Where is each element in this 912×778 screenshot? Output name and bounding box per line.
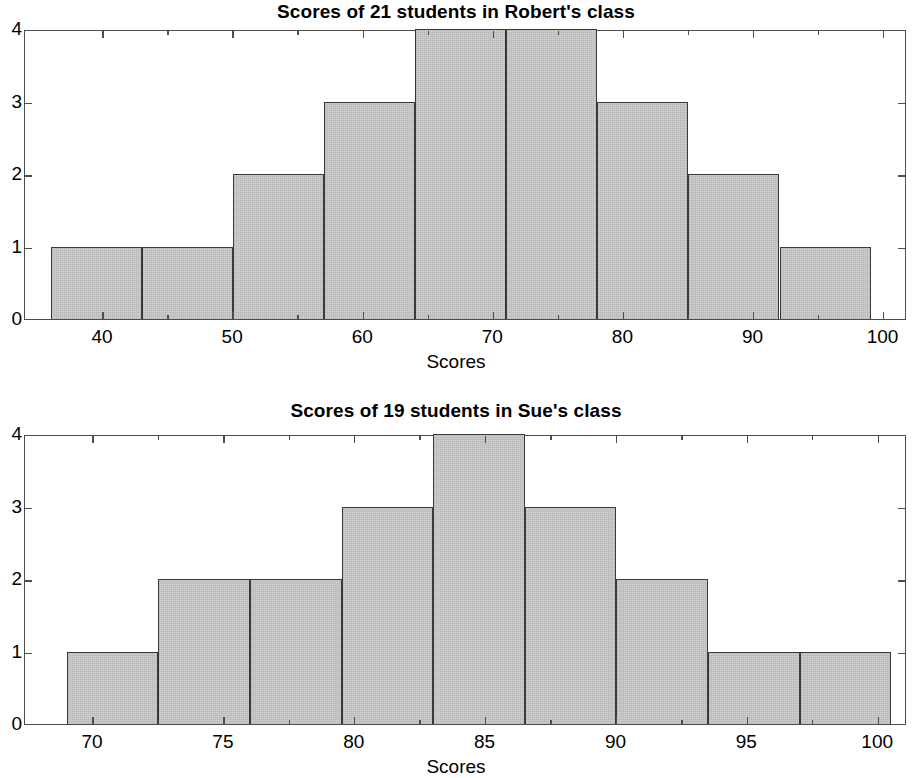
x-tick-mark [493,312,494,319]
x-tick-label: 70 [462,326,522,348]
histogram-bar [597,102,688,320]
figure-canvas: Scores of 21 students in Robert's class … [0,0,912,778]
histogram-bar [233,174,324,319]
x-minor-tick-mark [812,720,813,724]
x-minor-tick-mark [419,720,420,724]
histogram-bar [800,652,892,725]
x-axis-label-robert: Scores [0,351,912,373]
histogram-bar [324,102,415,320]
x-tick-mark [354,717,355,724]
x-minor-tick-mark [550,720,551,724]
histogram-bar [616,579,708,724]
x-tick-mark-top [485,436,486,443]
x-tick-label: 40 [72,326,132,348]
chart-panel-robert: Scores of 21 students in Robert's class … [0,0,912,389]
x-tick-mark [753,312,754,319]
x-minor-tick-mark [558,315,559,319]
x-tick-mark-top [223,436,224,443]
y-tick-label: 1 [0,236,22,258]
chart-title-sue: Scores of 19 students in Sue's class [0,400,912,422]
histogram-bar [415,29,506,319]
y-tick-label: 0 [0,713,22,735]
histogram-bar [51,247,142,320]
x-minor-tick-mark-top [558,31,559,35]
x-minor-tick-mark-top [158,436,159,440]
chart-panel-sue: Scores of 19 students in Sue's class 707… [0,389,912,778]
x-minor-tick-mark [818,315,819,319]
x-minor-tick-mark [428,315,429,319]
x-tick-mark-top [363,31,364,38]
x-minor-tick-mark [688,315,689,319]
x-tick-mark [92,717,93,724]
x-minor-tick-mark-top [688,31,689,35]
x-tick-label: 60 [332,326,392,348]
x-tick-label: 100 [853,326,912,348]
x-minor-tick-mark-top [812,436,813,440]
histogram-bar [158,579,250,724]
x-tick-label: 80 [324,731,384,753]
x-minor-tick-mark-top [428,31,429,35]
x-tick-mark-top [753,31,754,38]
x-tick-mark-top [747,436,748,443]
x-minor-tick-mark-top [681,436,682,440]
histogram-bar [67,652,159,725]
y-tick-mark-right [898,653,905,654]
x-tick-mark [485,717,486,724]
x-tick-mark-top [232,31,233,38]
x-minor-tick-mark-top [289,436,290,440]
histogram-bar [433,434,525,724]
plot-area-robert [24,30,906,320]
x-tick-label: 85 [455,731,515,753]
y-tick-mark [25,248,32,249]
x-tick-label: 100 [847,731,907,753]
y-tick-label: 1 [0,641,22,663]
x-tick-mark-top [102,31,103,38]
histogram-bar [688,174,779,319]
x-tick-label: 95 [716,731,776,753]
y-tick-mark [25,580,32,581]
x-tick-label: 75 [193,731,253,753]
plot-area-sue [24,435,906,725]
x-tick-label: 90 [585,731,645,753]
y-tick-mark-right [898,508,905,509]
x-minor-tick-mark [297,315,298,319]
y-tick-mark [25,653,32,654]
histogram-bar [780,247,871,320]
x-tick-mark [878,717,879,724]
x-tick-mark-top [883,31,884,38]
y-tick-mark-right [898,248,905,249]
x-tick-mark-top [616,436,617,443]
x-tick-mark [883,312,884,319]
histogram-bar [525,507,617,725]
x-tick-mark [363,312,364,319]
x-tick-mark [623,312,624,319]
x-axis-label-sue: Scores [0,756,912,778]
y-tick-mark-right [898,175,905,176]
x-tick-label: 90 [722,326,782,348]
y-tick-label: 0 [0,308,22,330]
histogram-bar [708,652,800,725]
y-tick-label: 4 [0,18,22,40]
x-tick-label: 50 [202,326,262,348]
x-minor-tick-mark [167,315,168,319]
x-tick-mark [232,312,233,319]
x-tick-mark-top [878,436,879,443]
y-tick-label: 2 [0,163,22,185]
y-tick-mark [25,175,32,176]
histogram-bars-robert [25,31,905,319]
x-minor-tick-mark-top [550,436,551,440]
y-tick-mark [25,103,32,104]
x-minor-tick-mark [289,720,290,724]
histogram-bar [342,507,434,725]
y-tick-mark-right [898,103,905,104]
histogram-bar [506,29,597,319]
y-tick-mark-right [898,580,905,581]
histogram-bars-sue [25,436,905,724]
x-tick-mark [102,312,103,319]
x-minor-tick-mark-top [167,31,168,35]
x-tick-mark-top [493,31,494,38]
y-tick-label: 3 [0,496,22,518]
x-minor-tick-mark-top [297,31,298,35]
x-minor-tick-mark [158,720,159,724]
x-tick-mark [223,717,224,724]
